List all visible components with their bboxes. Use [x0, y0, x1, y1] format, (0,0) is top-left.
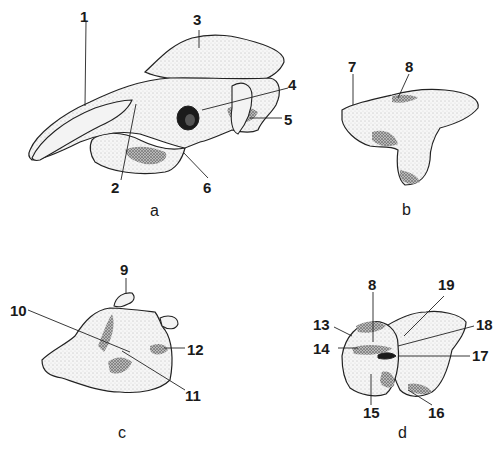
callout-3: 3 [193, 11, 201, 28]
callout-6: 6 [203, 179, 211, 196]
callout-19: 19 [438, 276, 455, 293]
callout-5: 5 [284, 111, 292, 128]
callout-4: 4 [288, 76, 297, 93]
callout-8d: 8 [368, 276, 376, 293]
bone-c-notch [160, 316, 178, 329]
callout-9: 9 [120, 261, 128, 278]
leader-1 [85, 22, 86, 106]
panel-label-c: c [118, 424, 126, 441]
callout-7: 7 [348, 58, 356, 75]
callout-11: 11 [185, 387, 201, 404]
callout-18: 18 [476, 316, 493, 333]
callout-13: 13 [313, 316, 330, 333]
callout-17: 17 [472, 347, 489, 364]
panel-a: 1 2 3 4 5 6 a [29, 8, 297, 219]
callout-1: 1 [80, 8, 88, 25]
callout-10: 10 [10, 302, 27, 319]
callout-16: 16 [428, 404, 445, 421]
bone-b [342, 89, 478, 185]
panel-label-a: a [150, 202, 159, 219]
callout-14: 14 [313, 340, 330, 357]
panel-c: 9 10 11 12 c [10, 261, 204, 441]
bone-a-crest [145, 35, 284, 82]
bone-c-hook [114, 293, 134, 307]
panel-label-b: b [402, 201, 411, 218]
leader-6 [183, 152, 208, 178]
callout-15: 15 [363, 404, 380, 421]
panel-label-d: d [398, 424, 407, 441]
panel-b: 7 8 b [342, 58, 478, 218]
panel-d: 8 13 14 15 16 17 18 19 d [313, 276, 493, 441]
foramen-a-inner [185, 114, 195, 126]
callout-12: 12 [187, 341, 204, 358]
leader-13 [334, 327, 352, 336]
callout-2: 2 [111, 179, 119, 196]
callout-8b: 8 [405, 58, 413, 75]
anatomical-figure: 1 2 3 4 5 6 a 7 8 b 9 10 11 12 c [0, 0, 503, 451]
